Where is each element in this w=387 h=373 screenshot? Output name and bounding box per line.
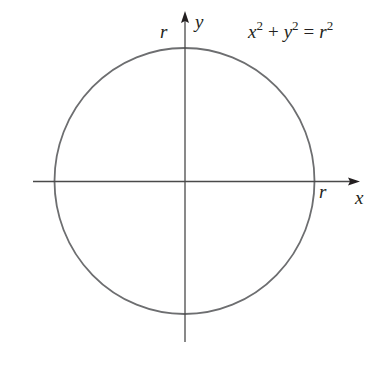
equation-equals: = xyxy=(304,21,315,42)
equation-r-exponent: 2 xyxy=(327,18,334,33)
equation-plus: + xyxy=(268,21,279,42)
circle-diagram: y x r r x2+y2=r2 xyxy=(0,0,387,373)
equation-y: y xyxy=(282,21,293,42)
equation-x-exponent: 2 xyxy=(256,18,263,33)
equation-y-exponent: 2 xyxy=(292,18,299,33)
circle-equation: x2+y2=r2 xyxy=(247,18,333,42)
x-axis-label: x xyxy=(354,187,364,208)
radius-label-right: r xyxy=(319,181,327,202)
svg-text:x2+y2=r2: x2+y2=r2 xyxy=(247,18,333,42)
radius-label-top: r xyxy=(160,21,168,42)
y-axis-label: y xyxy=(193,11,204,32)
